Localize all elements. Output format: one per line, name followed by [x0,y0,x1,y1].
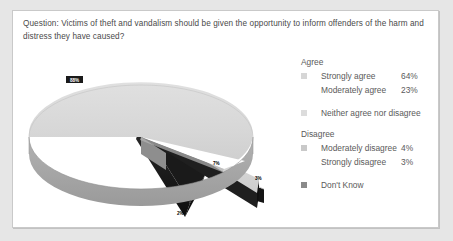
pie-label-disagree: 3% [255,176,262,181]
legend-spacer [293,169,443,178]
legend-label: Moderately agree [321,85,386,95]
legend-value: 4% [401,143,413,153]
legend-swatch-icon [301,159,307,165]
legend-label: Strongly disagree [321,157,386,167]
pie-label-agree: 88% [70,78,79,83]
legend-swatch-icon [301,73,307,79]
pie-label-dont-know: 2% [177,211,184,216]
legend-item-dont-know[interactable]: Don't Know [293,178,443,192]
legend-item-moderately-agree[interactable]: Moderately agree 23% [293,83,443,97]
legend-label: Moderately disagree [321,143,397,153]
legend-item-neither[interactable]: Neither agree nor disagree [293,106,443,120]
pie-label-neither: 7% [213,161,220,166]
legend-item-strongly-disagree[interactable]: Strongly disagree 3% [293,155,443,169]
legend-swatch-icon [301,87,307,93]
chart-panel: Question: Victims of theft and vandalism… [12,10,439,228]
legend-swatch-icon [301,145,307,151]
legend-swatch-icon [301,110,307,116]
legend-value: 23% [401,85,418,95]
pie-chart: 88% 7% 3% 2% [19,53,299,227]
chart-legend: Agree Strongly agree 64% Moderately agre… [293,57,443,192]
legend-item-moderately-disagree[interactable]: Moderately disagree 4% [293,141,443,155]
legend-item-strongly-agree[interactable]: Strongly agree 64% [293,69,443,83]
legend-spacer [293,120,443,129]
legend-label: Strongly agree [321,71,375,81]
legend-spacer [293,97,443,106]
chart-figure: Question: Victims of theft and vandalism… [0,0,453,241]
legend-group-disagree: Disagree [301,129,443,139]
question-text: Question: Victims of theft and vandalism… [23,18,427,43]
pie-svg: 88% 7% 3% 2% [19,53,299,227]
legend-swatch-icon [301,182,307,188]
legend-group-agree: Agree [301,57,443,67]
legend-label: Neither agree nor disagree [321,108,421,118]
legend-label: Don't Know [321,180,364,190]
legend-value: 3% [401,157,413,167]
legend-value: 64% [401,71,418,81]
